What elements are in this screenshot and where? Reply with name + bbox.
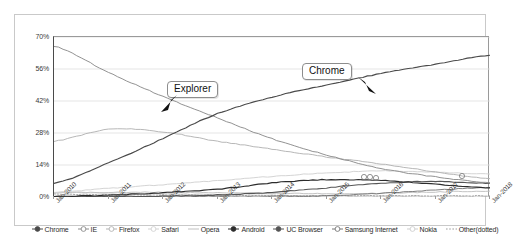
- callout-chrome-pointer: [356, 75, 382, 97]
- legend-label: UC Browser: [286, 226, 322, 233]
- x-axis-tick: [435, 196, 436, 199]
- legend-item-android[interactable]: Android: [228, 225, 264, 233]
- callout-chrome: Chrome: [302, 63, 352, 80]
- y-axis-tick-label: 56%: [15, 65, 49, 72]
- x-axis-tick-label: Jan-2018: [490, 180, 514, 204]
- line-dotted-icon: [446, 225, 457, 233]
- legend-item-safari[interactable]: Safari: [148, 225, 178, 233]
- legend-label: Firefox: [119, 226, 139, 233]
- x-axis-tick: [489, 196, 490, 199]
- chart-plot-svg: [54, 37, 490, 197]
- legend-label: Android: [241, 226, 264, 233]
- legend-item-uc-browser[interactable]: UC Browser: [273, 225, 322, 233]
- plot-area: [53, 36, 489, 196]
- legend-label: Safari: [161, 226, 178, 233]
- legend-item-chrome[interactable]: Chrome: [32, 225, 69, 233]
- y-axis-tick-label: 42%: [15, 97, 49, 104]
- legend-item-nokia[interactable]: Nokia: [407, 225, 437, 233]
- y-axis-tick-label: 28%: [15, 129, 49, 136]
- callout-explorer-pointer: [155, 93, 179, 115]
- callout-chrome-label: Chrome: [309, 65, 345, 76]
- circle-dot-icon: [32, 225, 43, 233]
- legend-label: Opera: [201, 226, 220, 233]
- x-axis-tick: [162, 196, 163, 199]
- callout-explorer-label: Explorer: [174, 83, 211, 94]
- legend-item-ie[interactable]: IE: [78, 225, 97, 233]
- line-icon: [188, 225, 199, 233]
- circle-open-icon: [148, 225, 159, 233]
- chart-legend: ChromeIEFirefoxSafariOperaAndroidUC Brow…: [29, 221, 501, 237]
- y-axis-tick-label: 14%: [15, 161, 49, 168]
- chart-frame: 70%56%42%28%14%0% Jan-2010Jan-2011Jan-20…: [14, 14, 486, 226]
- legend-item-other-dotted[interactable]: Other(dotted): [446, 225, 499, 233]
- legend-label: IE: [91, 226, 97, 233]
- circle-open-icon: [78, 225, 89, 233]
- legend-label: Samsung Internet: [345, 226, 398, 233]
- y-axis-tick-label: 70%: [15, 33, 49, 40]
- legend-item-samsung-internet[interactable]: Samsung Internet: [332, 225, 398, 233]
- y-axis-tick-label: 0%: [15, 193, 49, 200]
- x-axis-tick: [53, 196, 54, 199]
- legend-label: Chrome: [45, 226, 69, 233]
- x-axis-tick: [326, 196, 327, 199]
- x-axis-tick: [108, 196, 109, 199]
- legend-item-firefox[interactable]: Firefox: [106, 225, 139, 233]
- circle-dot-icon: [273, 225, 284, 233]
- circle-dot-icon: [228, 225, 239, 233]
- circle-open-icon: [106, 225, 117, 233]
- circle-open-icon: [332, 225, 343, 233]
- circle-open-icon: [407, 225, 418, 233]
- x-axis-tick: [217, 196, 218, 199]
- legend-label: Other(dotted): [459, 226, 499, 233]
- x-axis-tick: [380, 196, 381, 199]
- x-axis-tick: [271, 196, 272, 199]
- legend-label: Nokia: [420, 226, 437, 233]
- legend-item-opera[interactable]: Opera: [188, 225, 220, 233]
